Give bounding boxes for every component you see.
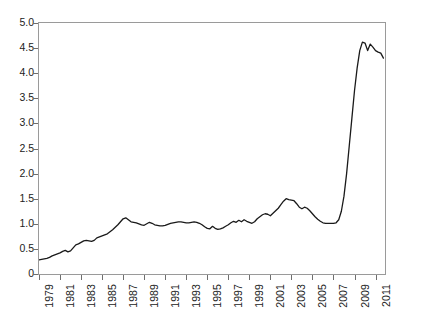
y-tick-label: 3.5 (0, 91, 34, 103)
x-tick-label: 1997 (232, 284, 244, 308)
x-tick-label: 2001 (274, 284, 286, 308)
x-tick-mark (355, 275, 356, 280)
y-tick-label: 5.0 (0, 16, 34, 28)
x-tick-mark (165, 275, 166, 280)
x-tick-label: 2007 (337, 284, 349, 308)
x-tick-label: 1999 (253, 284, 265, 308)
x-tick-label: 1993 (190, 284, 202, 308)
x-tick-mark (144, 275, 145, 280)
y-tick-label: 2.0 (0, 167, 34, 179)
x-tick-label: 1991 (169, 284, 181, 308)
x-tick-label: 2011 (380, 284, 392, 307)
y-tick-label: 2.5 (0, 142, 34, 154)
x-tick-mark (60, 275, 61, 280)
y-tick-label: 0.5 (0, 242, 34, 254)
x-tick-mark (249, 275, 250, 280)
x-tick-label: 1995 (211, 284, 223, 308)
x-tick-label: 1983 (85, 284, 97, 308)
x-tick-label: 2005 (316, 284, 328, 308)
x-tick-label: 1989 (148, 284, 160, 308)
data-line (39, 42, 383, 260)
x-tick-label: 2009 (359, 284, 371, 308)
x-tick-mark (186, 275, 187, 280)
chart-container: 00.51.01.52.02.53.03.54.04.55.0 19791981… (0, 0, 428, 324)
x-tick-label: 1985 (106, 284, 118, 308)
x-tick-label: 2003 (295, 284, 307, 308)
x-tick-mark (312, 275, 313, 280)
y-tick-label: 3.0 (0, 116, 34, 128)
x-tick-mark (270, 275, 271, 280)
x-tick-mark (39, 275, 40, 280)
x-tick-mark (333, 275, 334, 280)
x-tick-mark (291, 275, 292, 280)
y-tick-label: 4.0 (0, 66, 34, 78)
x-tick-mark (123, 275, 124, 280)
x-tick-mark (207, 275, 208, 280)
y-tick-label: 1.5 (0, 192, 34, 204)
line-series-svg (39, 23, 385, 274)
x-tick-mark (376, 275, 377, 280)
x-tick-label: 1987 (127, 284, 139, 308)
x-tick-label: 1979 (43, 284, 55, 308)
x-tick-label: 1981 (64, 284, 76, 308)
y-tick-label: 1.0 (0, 217, 34, 229)
y-tick-label: 0 (0, 267, 34, 279)
x-tick-mark (228, 275, 229, 280)
x-tick-mark (102, 275, 103, 280)
y-tick-label: 4.5 (0, 41, 34, 53)
plot-area (38, 22, 386, 275)
x-tick-mark (81, 275, 82, 280)
